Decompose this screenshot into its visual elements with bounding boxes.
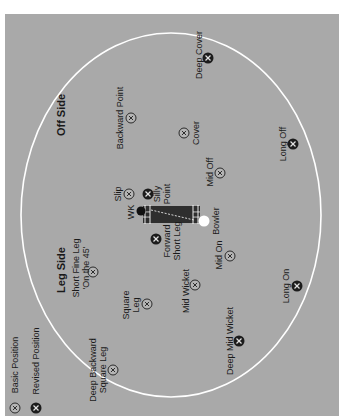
deep-mid-wicket-revised-marker-icon [234, 336, 245, 347]
boundary-rope [0, 0, 348, 420]
deep-cover-label: Deep Cover [194, 31, 204, 79]
backward-point-basic-marker-icon [126, 113, 137, 124]
bowler-player-dot [199, 216, 210, 227]
mid-off-basic-marker-icon [215, 168, 226, 179]
deep-backward-square-leg-label: Deep BackwardSquare Leg [88, 338, 108, 402]
wk-label: WK [126, 205, 136, 220]
bowler-label: Bowler [211, 207, 221, 235]
mid-off-label: Mid Off [205, 158, 215, 187]
mid-on-basic-marker-icon [225, 251, 236, 262]
silly-point-label: SillyPoint [152, 184, 172, 205]
legend-revised-position-icon [31, 403, 42, 414]
off-side-label: Off Side [55, 94, 67, 136]
long-on-label: Long On [281, 269, 291, 304]
mid-wicket-label: Mid Wicket [181, 269, 191, 313]
legend-revised-label: Revised Position [31, 327, 41, 394]
slip-basic-marker-icon [124, 189, 135, 200]
mid-wicket-basic-marker-icon [190, 280, 201, 291]
short-fine-leg-label: Short Fine Leg'On the 45' [71, 238, 91, 297]
square-leg-label: SquareLeg [121, 290, 141, 319]
backward-point-label: Backward Point [115, 87, 125, 150]
deep-cover-revised-marker-icon [203, 53, 214, 64]
deep-backward-square-leg-basic-marker-icon [108, 365, 119, 376]
forward-short-leg-label: ForwardShort Leg [162, 221, 182, 260]
long-on-revised-marker-icon [292, 281, 303, 292]
square-leg-basic-marker-icon [142, 299, 153, 310]
leg-side-label: Leg Side [55, 247, 67, 293]
legend-basic-label: Basic Position [10, 337, 20, 394]
deep-mid-wicket-label: Deep Mid Wicket [225, 307, 235, 375]
cover-label: Cover [191, 121, 201, 145]
legend-basic-position-icon [10, 403, 21, 414]
long-off-revised-marker-icon [288, 139, 299, 150]
cover-basic-marker-icon [179, 128, 190, 139]
slip-label: Slip [113, 186, 123, 201]
long-off-label: Long Off [278, 127, 288, 161]
wk-player-dot [137, 207, 146, 216]
forward-short-leg-revised-marker-icon [151, 234, 162, 245]
mid-on-label: Mid On [214, 240, 224, 269]
